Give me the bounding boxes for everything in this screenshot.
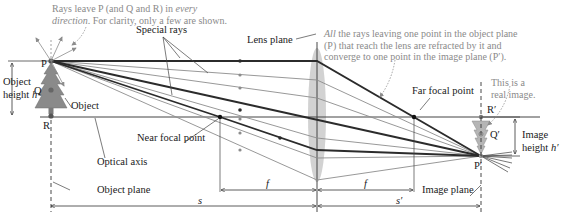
all-rays-note-line1: the rays leaving one point in the object… (336, 28, 518, 39)
f-near-label: f (266, 178, 269, 189)
point-Q-dot (48, 87, 53, 92)
object-height-label: Object height h (3, 75, 37, 101)
all-rays-note-line3: converge to one point in the image plane… (324, 51, 506, 62)
s-prime-label: s′ (396, 195, 402, 206)
far-focal-point (412, 115, 416, 119)
image-height-label-line1: Image (522, 129, 548, 140)
point-Q-label: Q (34, 85, 42, 96)
rays-leave-note: Rays leave P (and Q and R) in every dire… (52, 3, 227, 26)
point-R-label: R (43, 120, 50, 131)
real-image-note-line1: This is a (491, 77, 525, 88)
f-far-var: f (364, 178, 367, 189)
image-height-var: h′ (551, 142, 559, 153)
object-plane-label: Object plane (97, 184, 150, 195)
point-P-label: P (41, 58, 47, 69)
object-height-label-line2: height (3, 89, 32, 100)
rays-leave-note-em2: direction (52, 15, 88, 26)
all-rays-note-em: All (324, 28, 336, 39)
all-rays-note-line2: (P) that reach the lens are refracted by… (324, 40, 501, 51)
rays-leave-note-em: every (176, 3, 198, 14)
point-R-dot (48, 113, 53, 118)
other-ray-arrows (238, 73, 241, 151)
object-height-label-line1: Object (3, 76, 31, 87)
all-rays-note: All the rays leaving one point in the ob… (324, 28, 518, 63)
point-Q-prime-label: Q′ (490, 129, 500, 140)
s-var: s (198, 195, 202, 206)
far-focal-point-label: Far focal point (412, 85, 474, 96)
image-height-label-line2: height (522, 142, 551, 153)
special-rays-label: Special rays (136, 24, 187, 35)
thin-lens-diagram: Rays leave P (and Q and R) in every dire… (0, 0, 574, 217)
note-pointer-all-rays (380, 60, 395, 97)
rays-leave-note-line1: Rays leave P (and Q and R) in (52, 3, 176, 14)
s-prime-var: s′ (396, 195, 402, 206)
special-rays (51, 61, 481, 156)
f-far-label: f (364, 178, 367, 189)
f-near-var: f (266, 178, 269, 189)
object-label: Object (71, 100, 99, 111)
note-pointer-rays (72, 27, 86, 45)
near-focal-point (218, 115, 222, 119)
special-ray-arrows (238, 59, 282, 140)
image-height-label: Image height h′ (522, 128, 558, 154)
real-image-note: This is a real image. (491, 77, 535, 100)
s-label: s (198, 195, 202, 206)
diverging-rays-beyond-image (481, 152, 512, 172)
real-image-note-line2: real image. (491, 89, 535, 100)
image-plane-label: Image plane (422, 184, 474, 195)
near-focal-point-label: Near focal point (137, 132, 205, 143)
point-P-prime-label: P′ (474, 160, 482, 171)
point-R-prime-label: R′ (487, 104, 496, 115)
lens-plane-label: Lens plane (247, 34, 293, 45)
optical-axis-label: Optical axis (97, 156, 147, 167)
